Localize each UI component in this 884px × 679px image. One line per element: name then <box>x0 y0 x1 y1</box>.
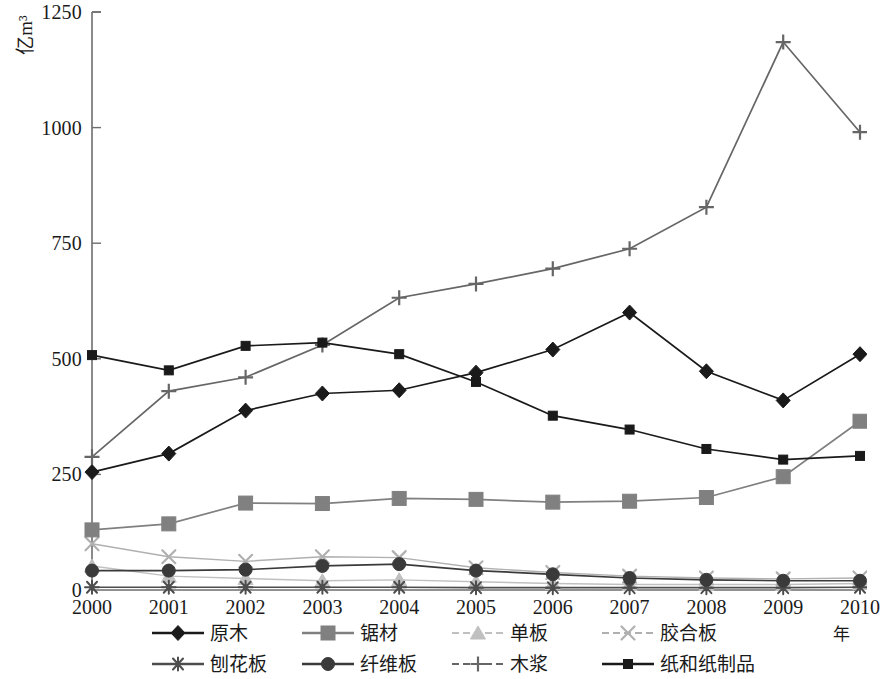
data-point-marker <box>854 574 867 587</box>
data-point-marker <box>471 626 486 639</box>
data-point-marker <box>239 496 253 510</box>
data-point-marker <box>546 495 560 509</box>
data-point-marker <box>469 276 484 291</box>
data-point-marker <box>625 425 634 434</box>
data-point-marker <box>622 241 637 256</box>
data-point-marker <box>315 581 329 594</box>
series-原木 <box>85 305 867 480</box>
data-point-marker <box>321 626 335 640</box>
data-point-marker <box>85 581 99 594</box>
legend-item-单板[interactable]: 单板 <box>450 618 548 648</box>
legend-label: 胶合板 <box>656 624 717 643</box>
data-point-marker <box>777 574 790 587</box>
triangle-marker-icon <box>450 620 506 646</box>
data-point-marker <box>853 414 867 428</box>
data-point-marker <box>853 347 867 362</box>
data-point-marker <box>239 563 252 576</box>
circle-marker-icon <box>300 651 356 677</box>
data-point-marker <box>702 444 711 453</box>
legend-label: 纸和纸制品 <box>656 655 755 674</box>
legend-row: 原木锯材单板胶合板 <box>150 618 750 648</box>
data-point-marker <box>392 383 406 398</box>
data-point-marker <box>471 657 486 672</box>
data-point-marker <box>546 581 560 594</box>
legend-row: 刨花板纤维板木浆纸和纸制品 <box>150 649 750 679</box>
legend-item-胶合板[interactable]: 胶合板 <box>600 618 717 648</box>
data-point-marker <box>699 491 713 505</box>
data-point-marker <box>162 446 176 461</box>
data-point-marker <box>699 200 714 215</box>
data-point-marker <box>392 491 406 505</box>
data-point-marker <box>776 393 790 408</box>
data-point-marker <box>469 581 483 594</box>
legend-label: 纤维板 <box>356 655 417 674</box>
data-point-marker <box>238 370 253 385</box>
data-point-marker <box>86 564 99 577</box>
data-point-marker <box>700 573 713 586</box>
data-point-marker <box>470 564 483 577</box>
plus-marker-icon <box>450 651 506 677</box>
data-point-marker <box>393 558 406 571</box>
series-木浆 <box>85 35 868 465</box>
legend-item-木浆[interactable]: 木浆 <box>450 649 548 679</box>
data-point-marker <box>162 581 176 594</box>
data-point-marker <box>85 523 99 537</box>
diamond-marker-icon <box>150 620 206 646</box>
data-point-marker <box>623 571 636 584</box>
data-point-marker <box>622 627 635 640</box>
data-point-marker <box>623 305 637 320</box>
legend-label: 原木 <box>206 624 248 643</box>
data-point-marker <box>315 497 329 511</box>
legend-item-纸和纸制品[interactable]: 纸和纸制品 <box>600 649 755 679</box>
data-point-marker <box>241 341 250 350</box>
data-point-marker <box>315 386 329 401</box>
star-marker-icon <box>150 651 206 677</box>
data-point-marker <box>395 350 404 359</box>
legend-label: 锯材 <box>356 624 398 643</box>
data-point-marker <box>162 564 175 577</box>
data-point-marker <box>171 658 185 671</box>
data-point-marker <box>85 465 99 480</box>
x-marker-icon <box>600 620 656 646</box>
data-point-marker <box>624 660 633 669</box>
data-point-marker <box>392 290 407 305</box>
data-point-marker <box>699 364 713 379</box>
series-纸和纸制品 <box>88 338 865 464</box>
data-point-marker <box>779 455 788 464</box>
legend-item-刨花板[interactable]: 刨花板 <box>150 649 267 679</box>
data-point-marker <box>469 492 483 506</box>
chart-legend: 原木锯材单板胶合板刨花板纤维板木浆纸和纸制品 <box>150 618 750 679</box>
square-marker-icon <box>300 620 356 646</box>
data-point-marker <box>545 261 560 276</box>
legend-label: 单板 <box>506 624 548 643</box>
series-刨花板 <box>85 581 867 594</box>
data-point-marker <box>392 581 406 594</box>
data-point-marker <box>322 658 335 671</box>
data-point-marker <box>164 366 173 375</box>
data-point-marker <box>856 451 865 460</box>
smallsquare-marker-icon <box>600 651 656 677</box>
legend-item-原木[interactable]: 原木 <box>150 618 248 648</box>
data-point-marker <box>162 517 176 531</box>
legend-label: 刨花板 <box>206 655 267 674</box>
data-point-marker <box>239 403 253 418</box>
series-锯材 <box>85 414 867 537</box>
data-point-marker <box>623 494 637 508</box>
data-point-marker <box>318 338 327 347</box>
data-point-marker <box>546 342 560 357</box>
legend-label: 木浆 <box>506 655 548 674</box>
data-point-marker <box>548 411 557 420</box>
data-point-marker <box>239 581 253 594</box>
data-point-marker <box>88 351 97 360</box>
legend-item-纤维板[interactable]: 纤维板 <box>300 649 417 679</box>
data-point-marker <box>776 470 790 484</box>
legend-item-锯材[interactable]: 锯材 <box>300 618 398 648</box>
data-point-marker <box>546 568 559 581</box>
data-point-marker <box>171 626 185 641</box>
data-point-marker <box>316 559 329 572</box>
